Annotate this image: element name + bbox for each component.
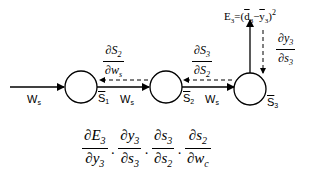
- edge-label-1-2: Ws: [120, 94, 134, 106]
- dot-operator: ·: [176, 136, 183, 162]
- node-2: [150, 71, 182, 103]
- dot-operator: ·: [143, 136, 150, 162]
- node-3: [234, 73, 266, 105]
- error-equation: E3=(d3−y3)2: [224, 8, 276, 25]
- gradient-s2-ws: ∂S2 ∂ws: [103, 44, 124, 80]
- edge-label-2-3: Ws: [205, 94, 219, 106]
- chain-term-1: ∂E3 ∂y3: [82, 128, 108, 169]
- chain-term-4: ∂s2 ∂wc: [185, 128, 211, 169]
- dot-operator: ·: [110, 136, 117, 162]
- node-label-3: S3: [267, 97, 278, 109]
- chain-term-3: ∂s3 ∂s2: [152, 128, 174, 169]
- gradient-s3-s2: ∂S3 ∂S2: [192, 44, 212, 80]
- chain-rule-formula: ∂E3 ∂y3 · ∂y3 ∂s3 · ∂s3 ∂s2 · ∂s2 ∂wc: [82, 128, 211, 169]
- gradient-y3-s3: ∂y3 ∂s3: [276, 32, 295, 68]
- edge-label-input: Ws: [27, 94, 41, 106]
- node-label-2: S2: [183, 93, 194, 105]
- chain-term-2: ∂y3 ∂s3: [118, 128, 141, 169]
- node-1: [65, 71, 97, 103]
- node-label-1: S1: [98, 93, 109, 105]
